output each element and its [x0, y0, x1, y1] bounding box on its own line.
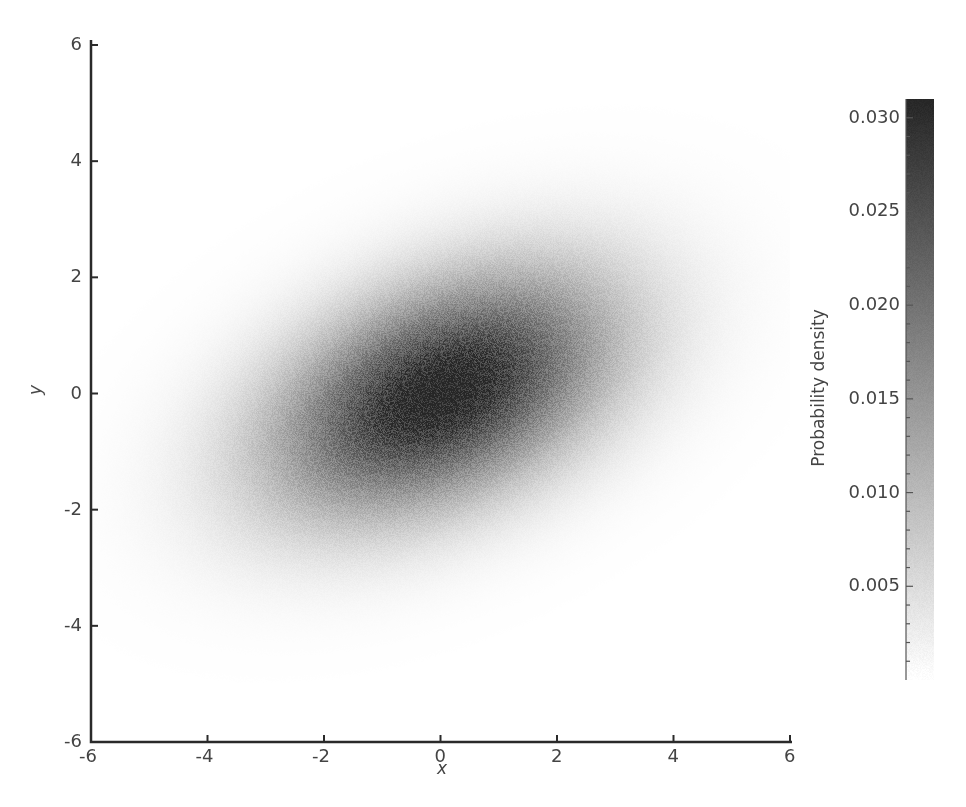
y-tick-label: -4 — [64, 614, 82, 635]
y-tick-label: -2 — [64, 498, 82, 519]
x-tick-label: 0 — [435, 745, 446, 766]
x-tick-label: -2 — [312, 745, 330, 766]
y-axis-label: y — [25, 385, 45, 395]
y-tick-label: 4 — [71, 149, 82, 170]
y-tick-label: 0 — [71, 382, 82, 403]
colorbar-tick-label: 0.030 — [848, 106, 900, 127]
colorbar-tick-label: 0.015 — [848, 387, 900, 408]
x-tick-label: 2 — [551, 745, 562, 766]
colorbar-tick-label: 0.025 — [848, 199, 900, 220]
colorbar-label: Probability density — [808, 293, 828, 483]
y-tick-label: -6 — [64, 730, 82, 751]
x-tick-label: 6 — [784, 745, 795, 766]
colorbar-tick-label: 0.020 — [848, 293, 900, 314]
y-tick-label: 6 — [71, 33, 82, 54]
colorbar-tick-label: 0.005 — [848, 574, 900, 595]
x-tick-label: -4 — [196, 745, 214, 766]
x-tick-label: 4 — [668, 745, 679, 766]
colorbar-tick-label: 0.010 — [848, 481, 900, 502]
y-tick-label: 2 — [71, 265, 82, 286]
